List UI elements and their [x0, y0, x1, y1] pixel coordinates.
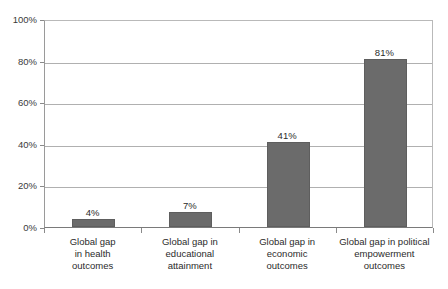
- x-axis-tick-mark: [433, 228, 434, 233]
- bar: [267, 142, 310, 227]
- bar-value-label: 41%: [257, 130, 317, 141]
- x-axis-category-label: Global gap ineconomicoutcomes: [239, 236, 336, 273]
- x-axis-category-label-line: Global gap: [44, 236, 141, 248]
- x-axis-category-label-line: outcomes: [44, 260, 141, 272]
- x-axis-category-label-line: Global gap in political: [336, 236, 433, 248]
- x-axis-category-label-line: educational: [141, 248, 238, 260]
- x-axis-category-label: Global gapin healthoutcomes: [44, 236, 141, 273]
- x-axis-category-label-line: Global gap in: [141, 236, 238, 248]
- y-axis-tick-label: 40%: [0, 140, 37, 150]
- bar: [169, 212, 212, 227]
- x-axis-category-label-line: outcomes: [239, 260, 336, 272]
- y-axis-tick-label: 100%: [0, 15, 37, 25]
- x-axis-tick-mark: [336, 228, 337, 233]
- x-axis-tick-mark: [239, 228, 240, 233]
- bar: [72, 219, 115, 227]
- x-axis-category-label: Global gap ineducationalattainment: [141, 236, 238, 273]
- x-axis-category-label-line: outcomes: [336, 260, 433, 272]
- y-axis-labels: 0%20%40%60%80%100%: [0, 20, 37, 228]
- x-axis-tick-mark: [44, 228, 45, 233]
- x-axis-tick-mark: [141, 228, 142, 233]
- bar-value-label: 4%: [63, 207, 123, 218]
- y-axis-tick-label: 60%: [0, 98, 37, 108]
- x-axis-category-label-line: empowerment: [336, 248, 433, 260]
- bar-chart: 0%20%40%60%80%100% 4%7%41%81% Global gap…: [0, 0, 448, 289]
- y-axis-tick-label: 0%: [0, 223, 37, 233]
- x-axis-category-label-line: in health: [44, 248, 141, 260]
- bar-value-label: 81%: [354, 47, 414, 58]
- y-axis-tick-label: 20%: [0, 181, 37, 191]
- x-axis-category-label-line: economic: [239, 248, 336, 260]
- bar: [364, 59, 407, 227]
- bar-value-label: 7%: [160, 200, 220, 211]
- x-axis-category-label-line: attainment: [141, 260, 238, 272]
- x-axis-category-label-line: Global gap in: [239, 236, 336, 248]
- y-axis-tick-label: 80%: [0, 57, 37, 67]
- x-axis-category-label: Global gap in politicalempowermentoutcom…: [336, 236, 433, 273]
